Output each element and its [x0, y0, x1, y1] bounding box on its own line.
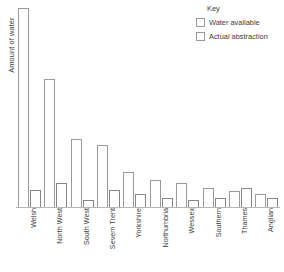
legend-swatch-icon: [196, 32, 205, 41]
bar-water-available: [176, 183, 187, 208]
x-axis-label: Anglian: [265, 208, 276, 268]
x-axis-tick-labels: WelshNorth WestSouth WestSevern TrentYor…: [16, 210, 280, 272]
x-axis-label: Wessex: [186, 208, 197, 268]
legend-item-label: Actual abstraction: [209, 32, 268, 41]
bar-group: [123, 4, 146, 208]
bar-group: [44, 4, 67, 208]
bar-water-available: [44, 79, 55, 208]
bar-water-available: [255, 194, 266, 208]
bar-water-available: [150, 180, 161, 208]
x-axis-label: Southern: [213, 208, 224, 268]
bar-actual-abstraction: [30, 190, 41, 208]
bar-water-available: [123, 172, 134, 208]
x-axis-label: North West: [54, 208, 65, 268]
x-axis-label: Severn Trent: [107, 208, 118, 268]
water-abstraction-bar-chart: Amount of water WelshNorth WestSouth Wes…: [0, 0, 284, 272]
legend-swatch-icon: [196, 18, 205, 27]
x-axis-label: Thames: [239, 208, 250, 268]
bar-water-available: [71, 139, 82, 208]
bar-water-available: [97, 145, 108, 208]
bar-actual-abstraction: [241, 188, 252, 208]
bar-water-available: [18, 8, 29, 208]
chart-legend: Key Water available Actual abstraction: [196, 4, 282, 46]
bar-actual-abstraction: [109, 190, 120, 208]
bar-actual-abstraction: [56, 183, 67, 208]
x-axis-label: Welsh: [28, 208, 39, 268]
bar-group: [18, 4, 41, 208]
bar-group: [150, 4, 173, 208]
bar-group: [97, 4, 120, 208]
legend-title: Key: [207, 4, 282, 13]
x-axis-label: South West: [81, 208, 92, 268]
bar-water-available: [229, 191, 240, 208]
legend-item-actual-abstraction: Actual abstraction: [196, 32, 282, 41]
x-axis-label: Northumbria: [160, 208, 171, 268]
legend-item-water-available: Water available: [196, 18, 282, 27]
legend-item-label: Water available: [209, 18, 260, 27]
bar-actual-abstraction: [135, 194, 146, 208]
bar-water-available: [203, 188, 214, 208]
x-axis-label: Yorkshire: [133, 208, 144, 268]
bar-group: [71, 4, 94, 208]
